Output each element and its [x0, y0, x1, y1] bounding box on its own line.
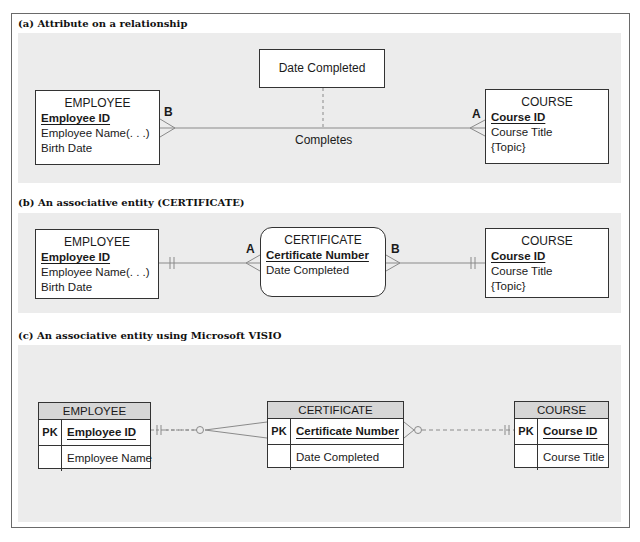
entity-attr: {Topic}	[486, 279, 608, 294]
entity-pk: Employee ID	[36, 250, 158, 265]
entity-title: EMPLOYEE	[36, 96, 159, 111]
cardinality-label-b: B	[164, 105, 173, 119]
cardinality-label-right: B	[391, 242, 400, 256]
relationship-name: Completes	[295, 133, 352, 147]
table-header: EMPLOYEE	[39, 403, 150, 420]
table-header: COURSE	[515, 402, 608, 419]
key-cell-empty	[39, 446, 62, 471]
visio-table-certificate[interactable]: CERTIFICATE PKCertificate Number Date Co…	[267, 401, 404, 468]
entity-attr: Employee Name(. . .)	[36, 126, 159, 141]
table-pk-field: Certificate Number	[291, 419, 399, 444]
entity-title: CERTIFICATE	[261, 233, 385, 248]
caption-a: (a) Attribute on a relationship	[18, 18, 187, 29]
table-pk-field: Course ID	[538, 419, 597, 444]
entity-title: EMPLOYEE	[36, 235, 158, 250]
entity-pk: Course ID	[486, 249, 608, 264]
entity-attr: Employee Name(. . .)	[36, 265, 158, 280]
entity-employee-b[interactable]: EMPLOYEE Employee ID Employee Name(. . .…	[35, 229, 159, 299]
entity-attr: {Topic}	[486, 140, 608, 155]
table-field: Employee Name	[62, 446, 152, 471]
cardinality-label-left: A	[246, 242, 255, 256]
key-cell-empty	[515, 445, 538, 470]
visio-table-employee[interactable]: EMPLOYEE PKEmployee ID Employee Name	[38, 402, 151, 469]
cardinality-label-a: A	[472, 107, 481, 121]
associative-entity-certificate[interactable]: CERTIFICATE Certificate Number Date Comp…	[260, 227, 386, 297]
entity-employee-a[interactable]: EMPLOYEE Employee ID Employee Name(. . .…	[35, 90, 160, 165]
entity-pk: Certificate Number	[261, 248, 385, 263]
entity-course-a[interactable]: COURSE Course ID Course Title {Topic}	[485, 89, 609, 164]
entity-pk: Employee ID	[36, 111, 159, 126]
visio-table-course[interactable]: COURSE PKCourse ID Course Title	[514, 401, 609, 468]
entity-attr: Course Title	[486, 125, 608, 140]
relationship-attribute-box[interactable]: Date Completed	[259, 49, 385, 88]
pk-tag: PK	[268, 419, 291, 444]
caption-b: (b) An associative entity (CERTIFICATE)	[18, 197, 245, 208]
entity-pk: Course ID	[486, 110, 608, 125]
entity-attr: Date Completed	[261, 263, 385, 278]
entity-attr: Birth Date	[36, 280, 158, 295]
caption-c: (c) An associative entity using Microsof…	[18, 330, 281, 341]
entity-title: COURSE	[486, 95, 608, 110]
entity-attr: Course Title	[486, 264, 608, 279]
table-header: CERTIFICATE	[268, 402, 403, 419]
entity-title: COURSE	[486, 234, 608, 249]
table-field: Date Completed	[291, 445, 379, 470]
table-field: Course Title	[538, 445, 604, 470]
entity-attr: Birth Date	[36, 141, 159, 156]
table-pk-field: Employee ID	[62, 420, 136, 445]
key-cell-empty	[268, 445, 291, 470]
entity-course-b[interactable]: COURSE Course ID Course Title {Topic}	[485, 228, 609, 298]
pk-tag: PK	[39, 420, 62, 445]
pk-tag: PK	[515, 419, 538, 444]
